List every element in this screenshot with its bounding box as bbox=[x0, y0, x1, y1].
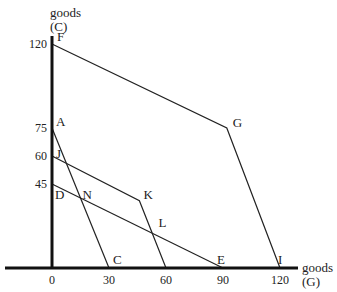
point-label-G: G bbox=[233, 115, 242, 130]
point-label-F: F bbox=[57, 29, 64, 44]
y-tick-label: 45 bbox=[35, 177, 47, 191]
y-axis-label-1: goods bbox=[50, 5, 81, 20]
point-label-K: K bbox=[143, 187, 153, 202]
x-axis-label-2: (G) bbox=[302, 274, 320, 289]
x-tick-label: 0 bbox=[49, 273, 55, 287]
x-tick-label: 90 bbox=[217, 273, 229, 287]
point-label-L: L bbox=[159, 215, 167, 230]
point-label-D: D bbox=[55, 187, 64, 202]
line-DE bbox=[52, 184, 223, 268]
y-tick-label: 60 bbox=[35, 149, 47, 163]
point-label-N: N bbox=[83, 187, 93, 202]
point-label-J: J bbox=[56, 146, 61, 161]
y-tick-label: 120 bbox=[29, 37, 47, 51]
point-label-E: E bbox=[217, 252, 225, 267]
point-label-I: I bbox=[278, 252, 282, 267]
frontier-FGI bbox=[52, 44, 280, 268]
x-tick-label: 30 bbox=[103, 273, 115, 287]
point-label-A: A bbox=[56, 114, 66, 129]
x-axis-label-1: goods bbox=[302, 260, 333, 275]
x-tick-label: 120 bbox=[271, 273, 289, 287]
x-tick-label: 60 bbox=[160, 273, 172, 287]
point-label-C: C bbox=[113, 252, 122, 267]
y-tick-label: 75 bbox=[35, 121, 47, 135]
ppf-diagram: goods (C) goods (G) 1207560450306090120 … bbox=[0, 0, 337, 292]
